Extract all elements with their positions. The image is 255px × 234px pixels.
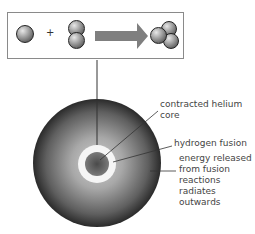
label-energy: energy released from fusion reactions ra… — [179, 153, 252, 208]
label-core: contracted helium core — [160, 99, 242, 121]
label-fusion: hydrogen fusion — [174, 138, 247, 149]
